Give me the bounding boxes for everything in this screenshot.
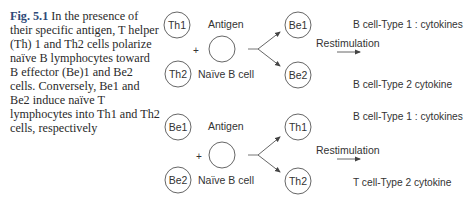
cell-label: Th2 <box>169 68 187 80</box>
bottom-effector-bottom-cell: Th2 <box>285 168 311 194</box>
cell-label: Th2 <box>289 175 307 187</box>
naive-cell-label: Naïve B cell <box>198 68 254 80</box>
top-effector-bottom-cell: Be2 <box>285 62 311 88</box>
bottom-naive-cell <box>209 142 235 168</box>
antigen-label: Antigen <box>208 18 244 30</box>
cell-label: Be1 <box>289 19 308 31</box>
output-top-label: B cell-Type 1 : cytokines <box>353 111 463 122</box>
top-effector-top-cell: Be1 <box>285 12 311 38</box>
bottom-panel: Be1 Be2 Antigen + Naïve B cell Th1 Th2 R… <box>165 111 463 194</box>
cell-label: Th1 <box>168 19 186 31</box>
cell-label: Th1 <box>289 121 307 133</box>
bottom-branch-arrow <box>248 137 280 172</box>
output-bottom-label: B cell-Type 2 cytokine <box>353 79 452 90</box>
restimulation-label: Restimulation <box>316 144 380 156</box>
bottom-effector-top-cell: Th1 <box>285 114 311 140</box>
top-naive-cell <box>209 36 235 62</box>
top-branch-arrow <box>248 32 280 66</box>
cell-label: Be2 <box>289 69 308 81</box>
naive-cell-label: Naïve B cell <box>198 174 254 186</box>
bottom-inducer-top-cell: Be1 <box>165 114 191 140</box>
restimulation-label: Restimulation <box>316 37 380 49</box>
top-inducer-top-cell: Th1 <box>164 12 190 38</box>
bottom-inducer-bottom-cell: Be2 <box>165 167 191 193</box>
cell-label: Be2 <box>169 174 188 186</box>
plus-sign: + <box>193 45 199 56</box>
antigen-label: Antigen <box>208 120 244 132</box>
cell-label: Be1 <box>169 121 188 133</box>
top-panel: Th1 Th2 Antigen + Naïve B cell Be1 Be2 R… <box>164 12 463 90</box>
output-top-label: B cell-Type 1 : cytokines <box>353 19 463 30</box>
top-inducer-bottom-cell: Th2 <box>165 61 191 87</box>
polarization-diagram: Th1 Th2 Antigen + Naïve B cell Be1 Be2 R… <box>0 0 472 201</box>
output-bottom-label: T cell-Type 2 cytokine <box>353 177 452 188</box>
plus-sign: + <box>196 151 202 162</box>
